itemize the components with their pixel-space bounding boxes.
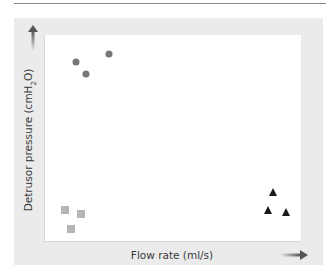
y-axis-label-subscript: 2 bbox=[30, 81, 38, 85]
y-axis-label-end: O) bbox=[22, 69, 34, 81]
arrow-up-icon bbox=[28, 25, 38, 51]
data-point-triangle bbox=[282, 208, 290, 216]
arrow-right-icon bbox=[280, 250, 308, 260]
top-divider bbox=[14, 3, 326, 4]
data-point-circle bbox=[106, 50, 113, 57]
data-point-square bbox=[61, 206, 69, 214]
y-axis-label: Detrusor pressure (cmH2O) bbox=[22, 69, 37, 212]
plot-area bbox=[44, 35, 301, 242]
data-point-triangle bbox=[269, 188, 277, 196]
data-point-square bbox=[77, 210, 85, 218]
data-point-circle bbox=[72, 58, 79, 65]
x-axis-label: Flow rate (ml/s) bbox=[131, 249, 213, 261]
data-point-circle bbox=[82, 71, 89, 78]
y-axis-label-main: Detrusor pressure (cmH bbox=[22, 85, 34, 211]
data-point-square bbox=[67, 225, 75, 233]
data-point-triangle bbox=[264, 206, 272, 214]
